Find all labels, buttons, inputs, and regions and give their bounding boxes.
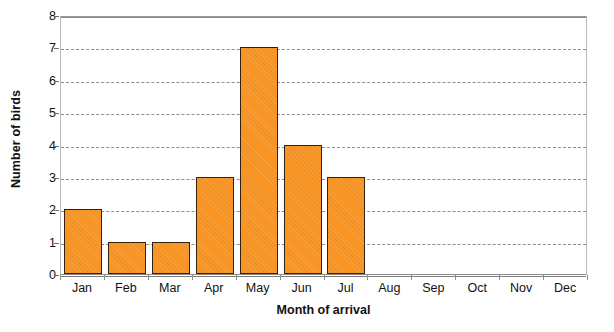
bar-slot	[237, 17, 281, 274]
bar-slot	[500, 17, 544, 274]
bar[interactable]	[196, 177, 234, 274]
x-axis-tick-mark	[148, 275, 149, 280]
bar-slot	[281, 17, 325, 274]
x-axis-tick-mark	[236, 275, 237, 280]
y-axis-tick-mark	[54, 275, 59, 276]
x-axis-tick-label: May	[236, 281, 280, 295]
y-axis-tick-marks	[0, 16, 62, 275]
bars-layer	[61, 17, 586, 274]
x-axis-tick-label: Jan	[60, 281, 104, 295]
y-axis-tick-mark	[54, 210, 59, 211]
x-axis-tick-labels: JanFebMarAprMayJunJulAugSepOctNovDec	[60, 281, 587, 301]
bar-slot	[456, 17, 500, 274]
x-axis-tick-label: Jun	[280, 281, 324, 295]
bar[interactable]	[240, 47, 278, 274]
x-axis-tick-mark	[587, 275, 588, 280]
x-axis-tick-mark	[411, 275, 412, 280]
y-axis-tick-mark	[54, 113, 59, 114]
x-axis-tick-mark	[455, 275, 456, 280]
x-axis-tick-label: Jul	[324, 281, 368, 295]
x-axis-tick-label: Oct	[455, 281, 499, 295]
x-axis-tick-mark	[60, 275, 61, 280]
x-axis-tick-label: Dec	[543, 281, 587, 295]
bar[interactable]	[284, 145, 322, 275]
bar-slot	[149, 17, 193, 274]
x-axis-tick-label: Nov	[499, 281, 543, 295]
bar-slot	[368, 17, 412, 274]
bar-slot	[325, 17, 369, 274]
x-axis-tick-mark	[367, 275, 368, 280]
x-axis-tick-label: Feb	[104, 281, 148, 295]
bar-slot	[544, 17, 588, 274]
x-axis-tick-label: Sep	[411, 281, 455, 295]
x-axis-tick-label: Apr	[192, 281, 236, 295]
x-axis-tick-mark	[192, 275, 193, 280]
x-axis-tick-mark	[324, 275, 325, 280]
x-axis-tick-mark	[499, 275, 500, 280]
plot-area	[60, 16, 587, 275]
bar[interactable]	[327, 177, 365, 274]
y-axis-tick-mark	[54, 16, 59, 17]
bar-slot	[412, 17, 456, 274]
y-axis-tick-mark	[54, 81, 59, 82]
y-axis-tick-mark	[54, 48, 59, 49]
y-axis-tick-mark	[54, 243, 59, 244]
bar-slot	[61, 17, 105, 274]
bar[interactable]	[64, 209, 102, 274]
bar-slot	[105, 17, 149, 274]
bar-chart: Number of birds arriving each month Numb…	[0, 0, 614, 332]
bar[interactable]	[152, 242, 190, 274]
x-axis-tick-mark	[543, 275, 544, 280]
x-axis-tick-mark	[280, 275, 281, 280]
x-axis-tick-label: Aug	[367, 281, 411, 295]
x-axis-tick-mark	[104, 275, 105, 280]
bar-slot	[193, 17, 237, 274]
x-axis-title: Month of arrival	[60, 303, 587, 317]
bar[interactable]	[108, 242, 146, 274]
y-axis-tick-mark	[54, 178, 59, 179]
x-axis-tick-label: Mar	[148, 281, 192, 295]
y-axis-tick-mark	[54, 146, 59, 147]
